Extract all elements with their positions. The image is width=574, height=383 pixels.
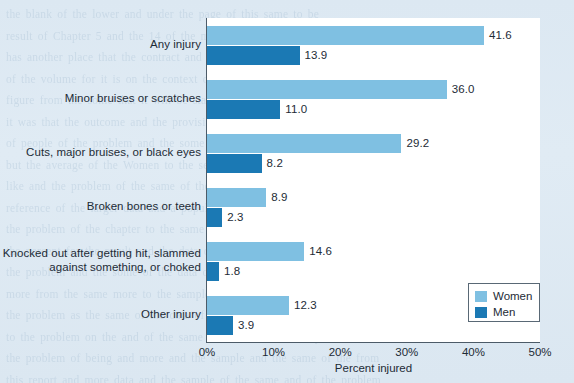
bar-group-row: 2.3 xyxy=(207,208,540,227)
bar-women-1[interactable] xyxy=(207,80,447,99)
category-label-line: Cuts, major bruises, or black eyes xyxy=(0,146,201,160)
figure-bar-chart: the blank of the lower and under the pag… xyxy=(0,0,574,383)
bar-women-0[interactable] xyxy=(207,26,484,45)
bar-women-2[interactable] xyxy=(207,134,401,153)
bar-men-3[interactable] xyxy=(207,208,222,227)
y-axis-line xyxy=(206,18,207,343)
legend-swatch-women-icon xyxy=(475,291,487,302)
bar-group-row: 13.9 xyxy=(207,46,540,65)
bar-value-label: 36.0 xyxy=(447,83,475,95)
bar-value-label: 41.6 xyxy=(484,29,512,41)
category-label-4: Knocked out after getting hit, slammedag… xyxy=(0,247,201,274)
category-label-5: Other injury xyxy=(0,308,201,322)
bar-group-row: 29.2 xyxy=(207,134,540,153)
x-axis-label: Percent injured xyxy=(207,362,540,374)
legend-item-men[interactable]: Men xyxy=(475,305,539,319)
bar-value-label: 8.2 xyxy=(262,157,283,169)
category-label-0: Any injury xyxy=(0,38,201,52)
x-axis-tick-40pct: 40% xyxy=(462,346,485,358)
x-axis-tick-30pct: 30% xyxy=(395,346,418,358)
bar-men-1[interactable] xyxy=(207,100,280,119)
bar-value-label: 2.3 xyxy=(222,211,243,223)
bar-women-5[interactable] xyxy=(207,296,289,315)
bar-group-row: 11.0 xyxy=(207,100,540,119)
bar-group-row: 8.9 xyxy=(207,188,540,207)
bar-value-label: 8.9 xyxy=(266,191,287,203)
bar-group-row: 36.0 xyxy=(207,80,540,99)
bar-value-label: 1.8 xyxy=(219,265,240,277)
category-label-line: Any injury xyxy=(0,38,201,52)
category-label-line: Knocked out after getting hit, slammed xyxy=(0,247,201,261)
bar-value-label: 11.0 xyxy=(280,103,307,115)
bar-value-label: 14.6 xyxy=(304,245,332,257)
category-label-2: Cuts, major bruises, or black eyes xyxy=(0,146,201,160)
category-label-3: Broken bones or teeth xyxy=(0,200,201,214)
category-label-line: against something, or choked xyxy=(0,261,201,275)
category-label-line: Broken bones or teeth xyxy=(0,200,201,214)
bar-men-4[interactable] xyxy=(207,262,219,281)
bar-men-2[interactable] xyxy=(207,154,262,173)
bar-women-3[interactable] xyxy=(207,188,266,207)
x-axis-line xyxy=(206,342,540,343)
bar-women-4[interactable] xyxy=(207,242,304,261)
bar-group-row: 14.6 xyxy=(207,242,540,261)
bar-group-row: 41.6 xyxy=(207,26,540,45)
bar-group-row: 1.8 xyxy=(207,262,540,281)
bar-value-label: 3.9 xyxy=(233,319,254,331)
x-axis-tick-10pct: 10% xyxy=(262,346,285,358)
bar-men-5[interactable] xyxy=(207,316,233,335)
category-label-line: Minor bruises or scratches xyxy=(0,92,201,106)
chart-legend: Women Men xyxy=(468,283,540,322)
bar-value-label: 12.3 xyxy=(289,299,317,311)
x-axis-tick-0pct: 0% xyxy=(199,346,216,358)
bar-value-label: 29.2 xyxy=(401,137,429,149)
legend-item-women[interactable]: Women xyxy=(475,289,539,303)
category-label-line: Other injury xyxy=(0,308,201,322)
bar-value-label: 13.9 xyxy=(300,49,328,61)
legend-label-men: Men xyxy=(493,307,515,318)
bar-men-0[interactable] xyxy=(207,46,300,65)
bar-group-row: 8.2 xyxy=(207,154,540,173)
x-axis-tick-50pct: 50% xyxy=(528,346,551,358)
legend-label-women: Women xyxy=(493,291,532,302)
category-label-1: Minor bruises or scratches xyxy=(0,92,201,106)
x-axis-tick-20pct: 20% xyxy=(329,346,352,358)
legend-swatch-men-icon xyxy=(475,307,487,318)
